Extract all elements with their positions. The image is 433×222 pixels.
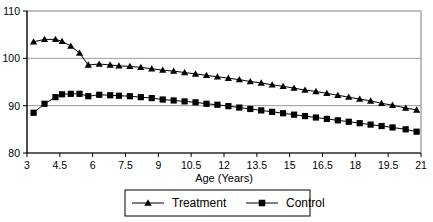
x-tick-label-6: 6	[90, 159, 96, 171]
x-tick-label-10.5: 10.5	[181, 159, 202, 171]
marker-square	[247, 106, 253, 112]
marker-square	[379, 123, 385, 129]
marker-square	[403, 126, 409, 132]
marker-square	[236, 104, 242, 110]
y-tick-label-80: 80	[8, 147, 20, 159]
x-tick-label-15: 15	[284, 159, 296, 171]
x-tick-label-7.5: 7.5	[118, 159, 133, 171]
line-chart-figure: 1101009080 34.567.5910.51213.51516.51819…	[0, 0, 433, 222]
marker-square	[192, 99, 198, 105]
legend-label-treatment: Treatment	[172, 196, 227, 210]
marker-square	[335, 117, 341, 123]
y-tick-label-90: 90	[8, 100, 20, 112]
marker-square	[52, 94, 58, 100]
marker-square	[127, 93, 133, 99]
marker-square	[291, 112, 297, 118]
marker-square	[160, 96, 166, 102]
marker-square	[368, 122, 374, 128]
marker-square	[171, 97, 177, 103]
marker-square	[68, 91, 74, 97]
marker-square	[76, 91, 82, 97]
marker-square	[41, 101, 47, 107]
marker-square	[259, 200, 266, 207]
marker-square	[116, 93, 122, 99]
y-tick-label-110: 110	[3, 5, 20, 17]
y-tick-label-100: 100	[2, 52, 20, 64]
x-tick-label-21: 21	[415, 159, 427, 171]
marker-square	[149, 95, 155, 101]
marker-square	[324, 116, 330, 122]
marker-square	[182, 98, 188, 104]
marker-square	[225, 103, 231, 109]
legend-label-control: Control	[286, 196, 325, 210]
x-tick-label-12: 12	[218, 159, 230, 171]
marker-square	[346, 119, 352, 125]
x-axis-title: Age (Years)	[195, 172, 253, 184]
x-tick-label-19.5: 19.5	[378, 159, 399, 171]
marker-square	[138, 94, 144, 100]
marker-square	[269, 109, 275, 115]
marker-square	[280, 110, 286, 116]
figure-background	[0, 0, 433, 222]
marker-square	[59, 91, 65, 97]
marker-square	[30, 110, 36, 116]
x-tick-label-13.5: 13.5	[247, 159, 268, 171]
marker-square	[414, 129, 420, 135]
marker-square	[214, 102, 220, 108]
x-tick-label-9: 9	[155, 159, 161, 171]
x-tick-label-18: 18	[349, 159, 361, 171]
marker-square	[357, 120, 363, 126]
x-tick-label-16.5: 16.5	[312, 159, 333, 171]
marker-square	[302, 113, 308, 119]
chart-legend: TreatmentControl	[125, 190, 325, 216]
x-tick-label-3: 3	[24, 159, 30, 171]
marker-square	[85, 93, 91, 99]
marker-square	[107, 92, 113, 98]
marker-square	[96, 92, 102, 98]
marker-square	[313, 114, 319, 120]
x-tick-label-4.5: 4.5	[53, 159, 68, 171]
marker-square	[203, 101, 209, 107]
marker-square	[389, 124, 395, 130]
marker-square	[258, 107, 264, 113]
